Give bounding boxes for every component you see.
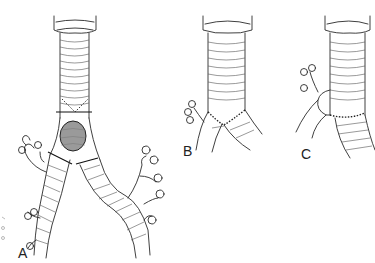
panel-label-b: B: [183, 144, 192, 158]
panel-label-a: A: [18, 246, 27, 260]
panel-a-drawing: [2, 16, 165, 258]
tracheal-resection-diagram: [0, 0, 375, 263]
panel-b-drawing: [185, 16, 263, 152]
panel-label-c: C: [301, 147, 311, 161]
panel-c-drawing: [296, 16, 375, 158]
